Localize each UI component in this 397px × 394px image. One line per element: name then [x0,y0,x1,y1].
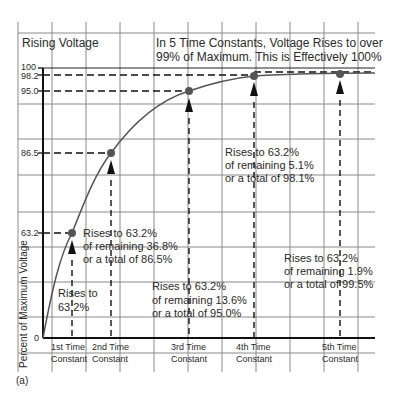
annotation-tc2-line1: Rises to 63.2% [83,227,157,239]
chart-subtitle-line2: 99% of Maximum. This is Effectively 100% [156,50,382,64]
chart-title: Rising Voltage [22,36,99,50]
annotation-tc3-line2: of remaining 13.6% [152,294,247,306]
x-tick-2-line2: Constant [92,354,129,364]
annotation-tc3-line3: or a total of 95.0% [152,307,241,319]
y-tick-98: 98.2 [21,71,39,81]
x-tick-3-line1: 3rd Time [171,342,206,352]
annotation-tc1-line1: Rises to [58,287,98,299]
annotation-tc3-line1: Rises to 63.2% [152,280,226,292]
annotations: Rises to 63.2% Rises to 63.2% of remaini… [58,146,373,319]
annotation-tc5-line2: of remaining 1.9% [284,265,373,277]
x-tick-3-line2: Constant [171,354,208,364]
y-tick-95: 95.0 [21,86,39,96]
annotation-tc4-line2: of remaining 5.1% [225,159,314,171]
chart-subtitle-line1: In 5 Time Constants, Voltage Rises to ov… [156,36,383,50]
y-tick-0: 0 [34,333,39,343]
y-tick-63: 63.2 [21,228,39,238]
x-tick-1-line2: Constant [51,354,88,364]
annotation-tc1-line2: 63.2% [58,301,89,313]
x-tick-5-line2: Constant [322,354,359,364]
x-tick-2-line1: 2nd Time [92,342,129,352]
y-axis-label: Percent of Maximum Voltage [18,240,29,368]
annotation-tc4-line3: or a total of 98.1% [225,172,314,184]
x-tick-4-line2: Constant [236,354,273,364]
y-tick-86: 86.5 [21,148,39,158]
x-tick-4-line1: 4th Time [236,342,271,352]
annotation-tc4-line1: Rises to 63.2% [225,146,299,158]
x-tick-1-line1: 1st Time [51,342,85,352]
annotation-tc2-line2: of remaining 36.8% [83,240,178,252]
x-tick-5-line1: 5th Time [322,342,357,352]
annotation-tc2-line3: or a total of 86.5% [83,253,172,265]
annotation-tc5-line3: or a total of 99.5% [284,278,373,290]
figure-label: (a) [16,375,28,386]
annotation-tc5-line1: Rises to 63.2% [284,252,358,264]
horizontal-guides [43,72,375,233]
rc-charging-chart: Rising Voltage In 5 Time Constants, Volt… [0,0,397,394]
